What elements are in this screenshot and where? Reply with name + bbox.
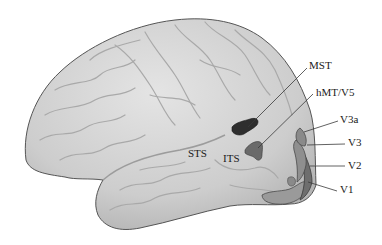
- label-v2: V2: [348, 160, 361, 171]
- label-v1: V1: [340, 184, 353, 195]
- label-v3: V3: [348, 137, 361, 148]
- label-mst: MST: [309, 60, 332, 71]
- brain-diagram: [0, 0, 382, 245]
- label-sts: STS: [188, 148, 207, 159]
- label-its: ITS: [223, 153, 240, 164]
- label-hmt-v5: hMT/V5: [316, 87, 355, 98]
- label-v3a: V3a: [340, 114, 358, 125]
- area-v1-inner: [288, 177, 296, 186]
